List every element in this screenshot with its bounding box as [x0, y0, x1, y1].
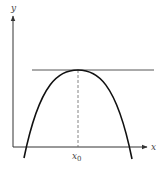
x0-label: x0 — [72, 151, 82, 163]
diagram-canvas: y x x0 — [0, 0, 165, 172]
x0-label-subscript: 0 — [77, 155, 81, 163]
y-axis-label: y — [10, 3, 17, 13]
diagram-svg: y x x0 — [0, 0, 165, 172]
x-axis-label: x — [151, 142, 156, 152]
